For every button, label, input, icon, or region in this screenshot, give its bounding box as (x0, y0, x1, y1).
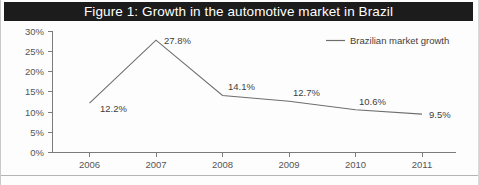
figure-title: Figure 1: Growth in the automotive marke… (84, 2, 393, 21)
y-tick-label-20: 20% (25, 66, 45, 77)
data-label-2007: 27.8% (164, 35, 191, 46)
x-tick-label-2009: 2009 (278, 159, 299, 170)
y-tick-label-0: 0% (30, 147, 44, 158)
y-tick-label-30: 30% (25, 26, 45, 37)
data-label-2006: 12.2% (100, 103, 127, 114)
x-tick-label-2007: 2007 (145, 159, 166, 170)
figure-container: Figure 1: Growth in the automotive marke… (0, 0, 479, 185)
x-tick-label-2008: 2008 (212, 159, 233, 170)
legend-label-brazilian-market-growth: Brazilian market growth (350, 35, 449, 46)
legend: Brazilian market growth (326, 35, 449, 46)
line-chart: 30% 25% 20% 15% 10% 5% 0% 2006 2007 2008… (1, 21, 479, 175)
data-label-2009: 12.7% (293, 87, 320, 98)
bottom-divider (1, 175, 479, 176)
x-tick-label-2010: 2010 (345, 159, 366, 170)
data-label-2008: 14.1% (228, 81, 255, 92)
y-axis-ticks (48, 31, 53, 152)
data-label-2010: 10.6% (359, 96, 386, 107)
y-tick-label-10: 10% (25, 107, 45, 118)
figure-title-banner: Figure 1: Growth in the automotive marke… (4, 2, 473, 21)
y-tick-label-15: 15% (25, 86, 45, 97)
data-label-2011: 9.5% (429, 109, 451, 120)
y-tick-label-5: 5% (30, 127, 44, 138)
x-tick-label-2011: 2011 (412, 159, 432, 170)
y-tick-label-25: 25% (25, 46, 45, 57)
x-tick-label-2006: 2006 (79, 159, 100, 170)
x-axis-ticks (90, 153, 423, 158)
